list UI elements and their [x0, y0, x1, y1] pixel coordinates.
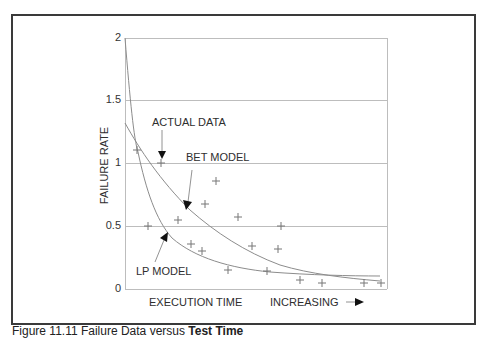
actual-data-arrow-icon [158, 151, 166, 159]
y-axis-label: FAILURE RATE [99, 126, 110, 206]
y-tick-1-5: 1.5 [91, 94, 121, 105]
gridlines [125, 38, 388, 290]
x-axis-label: EXECUTION TIME [149, 297, 242, 308]
bet-model-arrow-icon [183, 200, 192, 210]
y-tick-0-5: 0.5 [91, 220, 121, 231]
figure-caption: Figure 11.11 Failure Data versus Test Ti… [12, 325, 243, 337]
annotation-bet-model: BET MODEL [186, 152, 249, 163]
lp-model-curve [125, 38, 380, 276]
annotation-lp-model: LP MODEL [136, 266, 191, 277]
x-axis-increasing-label: INCREASING [270, 297, 338, 308]
y-tick-0: 0 [91, 283, 121, 294]
caption-bold: Test Time [188, 324, 243, 338]
annotation-actual-data: ACTUAL DATA [152, 117, 226, 128]
y-tick-2: 2 [91, 32, 121, 43]
bet-model-curve [125, 123, 380, 281]
increasing-arrow-icon [355, 298, 364, 306]
caption-prefix: Figure 11.11 Failure Data versus [12, 324, 185, 338]
